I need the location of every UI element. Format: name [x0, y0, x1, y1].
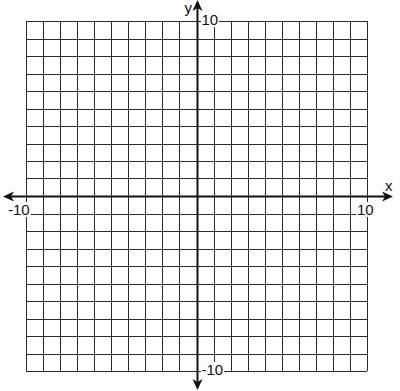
coordinate-plane	[0, 0, 400, 391]
y-min-tick-label: -10	[201, 362, 225, 377]
axes	[3, 0, 393, 390]
x-min-tick-label: -10	[7, 202, 31, 217]
y-max-tick-label: 10	[201, 12, 220, 27]
y-axis-label: y	[185, 0, 193, 15]
x-max-tick-label: 10	[356, 202, 375, 217]
x-axis-label: x	[385, 178, 393, 193]
